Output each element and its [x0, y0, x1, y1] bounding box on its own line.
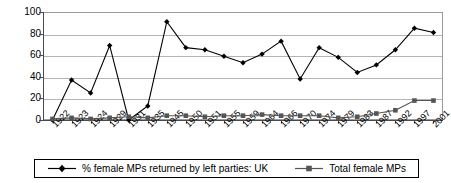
data-point-square	[298, 113, 303, 118]
series-layer	[43, 12, 443, 120]
data-point-square	[222, 113, 227, 118]
data-point-diamond	[202, 47, 207, 52]
series-line	[53, 22, 434, 120]
data-point-square	[69, 116, 74, 121]
data-point-square	[279, 113, 284, 118]
data-point-square	[50, 117, 55, 122]
data-point-square	[165, 113, 170, 118]
data-point-square	[355, 114, 360, 119]
legend-label-total-female-mps: Total female MPs	[329, 164, 406, 174]
data-point-diamond	[431, 30, 436, 35]
data-point-square	[431, 98, 436, 103]
data-point-square	[374, 111, 379, 116]
data-point-diamond	[297, 76, 302, 81]
data-point-square	[393, 108, 398, 113]
series-left-parties	[50, 19, 436, 123]
legend-entry-total-female-mps: Total female MPs	[294, 163, 406, 174]
data-point-square	[260, 112, 265, 117]
data-point-square	[184, 113, 189, 118]
data-point-diamond	[240, 60, 245, 65]
data-point-square	[145, 116, 150, 121]
legend-entry-left-parties: % female MPs returned by left parties: U…	[47, 163, 268, 174]
legend: % female MPs returned by left parties: U…	[34, 159, 419, 178]
data-point-square	[88, 117, 93, 122]
data-point-square	[336, 116, 341, 121]
data-point-square	[126, 114, 131, 119]
data-point-square	[241, 113, 246, 118]
data-point-diamond	[107, 43, 112, 48]
data-point-square	[412, 98, 417, 103]
data-point-square	[107, 116, 112, 121]
diamond-marker-icon	[47, 163, 77, 174]
series-total-female-mps	[50, 98, 436, 121]
data-point-diamond	[221, 54, 226, 59]
square-marker-icon	[294, 163, 324, 174]
chart-container: 020406080100 192219231924192919311935194…	[0, 0, 451, 183]
data-point-square	[317, 113, 322, 118]
data-point-square	[203, 114, 208, 119]
data-point-diamond	[316, 45, 321, 50]
legend-label-left-parties: % female MPs returned by left parties: U…	[82, 164, 268, 174]
